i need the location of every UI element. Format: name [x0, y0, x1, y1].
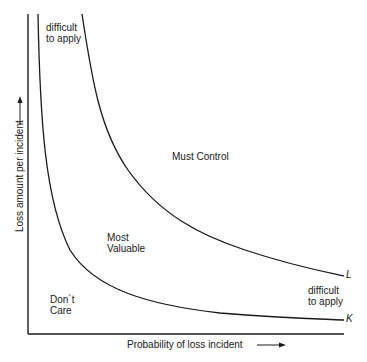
- curve-l-label: L: [346, 269, 352, 280]
- region-difficult-top: difficult to apply: [46, 22, 81, 44]
- region-difficult-bottom-line1: difficult: [308, 285, 343, 296]
- region-must-control: Must Control: [172, 151, 229, 162]
- region-dont-care-line2: Care: [50, 305, 74, 316]
- y-axis-label: Loss amount per incident: [14, 120, 25, 232]
- region-dont-care-line1: Don´t: [50, 294, 74, 305]
- curve-k-label: K: [346, 313, 353, 324]
- region-most-valuable: Most Valuable: [107, 232, 145, 254]
- x-axis-label: Probability of loss incident: [127, 339, 243, 350]
- region-difficult-bottom: difficult to apply: [308, 285, 343, 307]
- region-difficult-bottom-line2: to apply: [308, 296, 343, 307]
- curve-k: [38, 14, 344, 320]
- region-difficult-top-line1: difficult: [46, 22, 81, 33]
- region-most-valuable-line2: Valuable: [107, 243, 145, 254]
- region-most-valuable-line1: Most: [107, 232, 145, 243]
- region-dont-care: Don´t Care: [50, 294, 74, 316]
- region-difficult-top-line2: to apply: [46, 33, 81, 44]
- x-axis-arrow-icon: [257, 343, 286, 348]
